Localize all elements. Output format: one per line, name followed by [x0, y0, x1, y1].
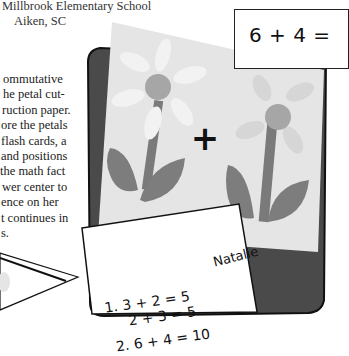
answer-line-3: 2. 6 + 4 = 10 — [115, 326, 211, 355]
student-name: Natalie — [212, 244, 260, 270]
flashcard-fragment — [0, 253, 78, 310]
problem-text: 6 + 4 = — [249, 23, 331, 47]
plus-sign: + — [191, 118, 220, 158]
problem-flashcard: 6 + 4 = — [234, 9, 349, 69]
